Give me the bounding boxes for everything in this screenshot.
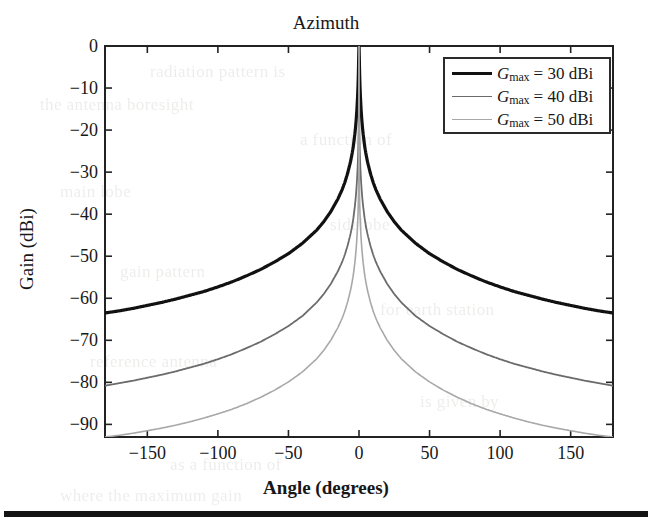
chart-legend: Gmax = 30 dBiGmax = 40 dBiGmax = 50 dBi — [443, 57, 611, 134]
y-tick-label: −70 — [38, 330, 98, 351]
legend-entry-label: Gmax = 50 dBi — [497, 111, 593, 129]
x-tick-label: 50 — [421, 443, 439, 464]
legend-entry: Gmax = 30 dBi — [445, 62, 609, 85]
x-tick-label: 150 — [557, 443, 584, 464]
y-tick-label: −50 — [38, 246, 98, 267]
y-tick-label: −10 — [38, 78, 98, 99]
page-bottom-rule — [4, 511, 648, 517]
y-tick-label: −60 — [38, 288, 98, 309]
legend-entry: Gmax = 50 dBi — [445, 108, 609, 131]
y-tick-label: −30 — [38, 162, 98, 183]
x-tick-label: 0 — [355, 443, 364, 464]
y-axis-tick-labels: 0−10−20−30−40−50−60−70−80−90 — [38, 0, 98, 525]
x-tick-label: −50 — [274, 443, 302, 464]
legend-entry: Gmax = 40 dBi — [445, 85, 609, 108]
x-tick-label: −150 — [129, 443, 166, 464]
legend-line-swatch — [452, 72, 492, 75]
y-tick-label: −90 — [38, 414, 98, 435]
chart-figure: Azimuth Angle (degrees) Gain (dBi) −150−… — [0, 0, 652, 525]
x-tick-label: −100 — [199, 443, 236, 464]
y-axis-title: Gain (dBi) — [16, 149, 38, 349]
y-tick-label: −40 — [38, 204, 98, 225]
legend-line-swatch — [452, 96, 492, 97]
y-tick-label: 0 — [38, 36, 98, 57]
legend-entry-label: Gmax = 40 dBi — [497, 88, 593, 106]
x-tick-label: 100 — [487, 443, 514, 464]
y-tick-label: −80 — [38, 372, 98, 393]
legend-line-swatch — [452, 119, 492, 120]
legend-entry-label: Gmax = 30 dBi — [497, 65, 593, 83]
y-tick-label: −20 — [38, 120, 98, 141]
